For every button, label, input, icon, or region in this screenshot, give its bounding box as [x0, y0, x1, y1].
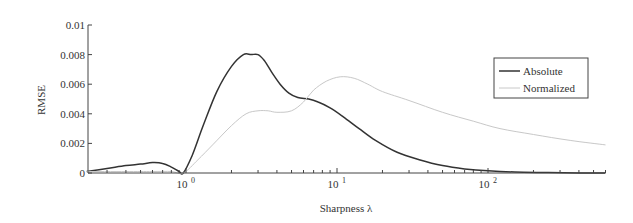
y-tick-label: 0.006 [60, 78, 85, 90]
x-tick-exponent: 1 [342, 176, 346, 185]
legend: Absolute Normalized [494, 58, 588, 98]
legend-label-normalized: Normalized [523, 82, 575, 94]
rmse-vs-sharpness-chart: 00.0020.0040.0060.0080.01100101102 RMSE … [0, 0, 633, 223]
x-tick-exponent: 2 [493, 176, 497, 185]
y-axis-label: RMSE [35, 85, 47, 115]
y-tick-label: 0.002 [60, 137, 85, 149]
legend-label-absolute: Absolute [523, 65, 563, 77]
y-tick-label: 0.01 [66, 19, 85, 31]
x-tick-label: 10 [177, 178, 189, 190]
x-tick-label: 10 [328, 178, 340, 190]
x-axis-label: Sharpness λ [320, 202, 373, 214]
y-tick-label: 0.008 [60, 49, 85, 61]
y-tick-label: 0.004 [60, 108, 85, 120]
y-tick-label: 0 [80, 167, 86, 179]
x-tick-exponent: 0 [191, 176, 195, 185]
x-tick-label: 10 [479, 178, 491, 190]
